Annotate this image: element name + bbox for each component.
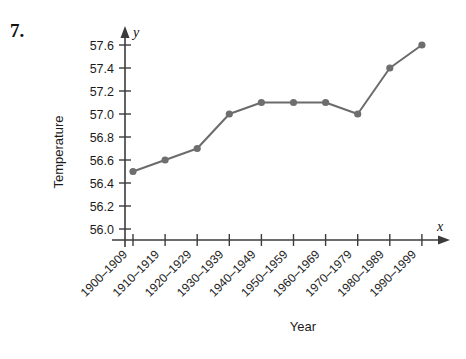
x-axis-title: Year: [290, 319, 317, 334]
y-tick-label: 57.6: [90, 39, 114, 53]
x-axis: [112, 236, 450, 245]
y-tick-label: 57.0: [90, 108, 114, 122]
y-axis-title: Temperature: [51, 116, 66, 189]
data-point: [290, 99, 297, 106]
data-point: [258, 99, 265, 106]
problem-number: 7.: [10, 20, 24, 42]
y-tick-label: 56.4: [90, 177, 114, 191]
data-point: [322, 99, 329, 106]
y-tick-label: 56.8: [90, 131, 114, 145]
data-point: [354, 110, 361, 117]
data-point: [418, 41, 425, 48]
y-tick-labels: 56.056.256.456.656.857.057.257.457.6: [90, 39, 114, 237]
line-chart: 56.056.256.456.656.857.057.257.457.6 190…: [0, 0, 466, 359]
temperature-data-points: [129, 41, 425, 175]
x-tick-labels: 1900–19091910–19191920–19291930–19391940…: [78, 247, 420, 300]
figure: 7. 56.056.256.456.656.857.057.257.457.6 …: [0, 0, 466, 359]
y-tick-label: 56.6: [90, 154, 114, 168]
temperature-series-line: [133, 45, 422, 172]
data-point: [194, 145, 201, 152]
y-tick-label: 56.0: [90, 223, 114, 237]
y-tick-label: 57.2: [90, 85, 114, 99]
data-point: [226, 110, 233, 117]
y-axis-variable-label: y: [131, 25, 140, 40]
data-point: [162, 156, 169, 163]
x-axis-variable-label: x: [436, 219, 444, 234]
data-point: [386, 64, 393, 71]
y-tick-label: 57.4: [90, 62, 114, 76]
data-point: [129, 168, 136, 175]
y-tick-label: 56.2: [90, 200, 114, 214]
